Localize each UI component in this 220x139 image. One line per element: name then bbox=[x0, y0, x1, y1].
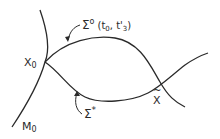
sigma-star-leader-arrow bbox=[76, 93, 82, 114]
sigma-star-trajectory-curve bbox=[45, 53, 208, 101]
x0-label: X0 bbox=[24, 56, 37, 70]
x-tilde-label: X bbox=[153, 94, 161, 107]
m0-label: M0 bbox=[22, 120, 37, 134]
sigma0-label: Σo(t0, t'3) bbox=[82, 17, 131, 33]
sigma0-arrowhead-icon bbox=[65, 36, 70, 42]
sigma0-leader-arrow bbox=[68, 25, 80, 40]
diagram-canvas: Σo(t0, t'3) X0 M0 Σ* ~ X bbox=[0, 0, 220, 139]
sigma-star-label: Σ* bbox=[84, 105, 97, 121]
sigma0-trajectory-curve bbox=[45, 37, 185, 107]
